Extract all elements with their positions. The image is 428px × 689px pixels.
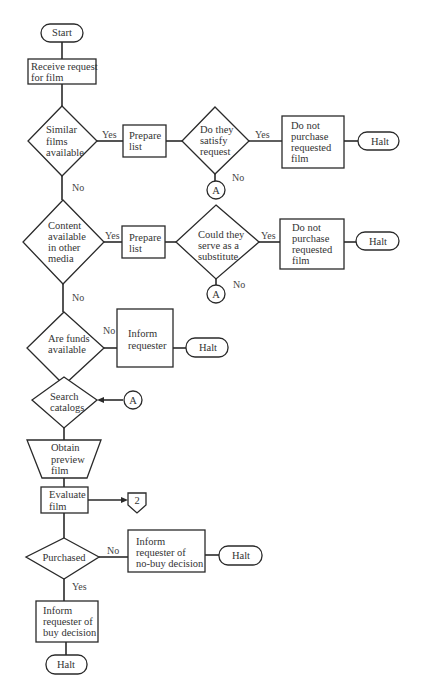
node-label: Evaluate [49, 489, 86, 500]
node-label: Do not [292, 222, 321, 233]
node-label: Halt [232, 550, 250, 561]
node-label: Obtain [51, 442, 80, 453]
process-do-not-purchase-1: Do not purchase requested film [282, 116, 344, 168]
node-label: media [48, 253, 74, 264]
node-label: substitute [198, 251, 239, 262]
manual-operation-obtain-preview: Obtain preview film [27, 440, 101, 478]
edge-label-purchased-no: No [107, 545, 119, 556]
node-label: Do not [291, 120, 320, 131]
node-label: Inform [128, 328, 157, 339]
decision-search-catalogs: Search catalogs [32, 377, 97, 428]
node-label: requester [128, 340, 167, 351]
node-label: film [49, 501, 67, 512]
edge-labels: Yes Yes No No Yes Yes No No No No Yes [72, 129, 276, 592]
node-label: serve as a [198, 240, 239, 251]
node-label: Halt [199, 342, 217, 353]
decision-serve-as-substitute: Could they serve as a substitute [176, 205, 259, 279]
node-label: A [129, 395, 137, 406]
off-page-connector-2: 2 [128, 493, 146, 513]
process-inform-buy: Inform requester of buy decision [36, 601, 98, 642]
process-receive-request: Receive request for film [28, 59, 98, 84]
node-label: requested [291, 142, 332, 153]
node-label: purchase [292, 233, 330, 244]
node-label: Do they [200, 124, 234, 135]
node-label: Purchased [42, 552, 86, 563]
node-label: Are funds [48, 333, 90, 344]
edge-label-satisfy-no: No [232, 172, 244, 183]
process-evaluate-film: Evaluate film [41, 487, 88, 513]
edge-label-content-yes: Yes [105, 230, 120, 241]
node-label: list [129, 141, 142, 152]
node-label: Content [48, 220, 81, 231]
node-label: Start [52, 27, 72, 38]
node-label: Halt [371, 136, 389, 147]
node-label: Receive request [31, 61, 98, 72]
decision-funds-available: Are funds available [27, 312, 104, 385]
node-label: list [129, 243, 142, 254]
node-label: films [46, 136, 68, 147]
node-label: in other [48, 242, 81, 253]
node-label: Could they [198, 229, 245, 240]
node-label: available [48, 231, 86, 242]
process-inform-no-buy: Inform requester of no-buy decision [128, 530, 205, 572]
edge-label-similar-yes: Yes [102, 129, 117, 140]
node-label: Inform [136, 536, 165, 547]
terminal-halt-3: Halt [186, 338, 228, 357]
process-prepare-list-2: Prepare list [122, 226, 165, 258]
process-inform-requester: Inform requester [117, 309, 173, 367]
arrow-head-icon [121, 497, 128, 503]
node-label: purchase [291, 131, 329, 142]
process-do-not-purchase-2: Do not purchase requested film [280, 219, 344, 269]
node-label: film [51, 465, 69, 476]
node-label: Search [50, 391, 79, 402]
node-label: preview [51, 454, 85, 465]
node-label: request [200, 146, 230, 157]
connector-a-2: A [207, 285, 225, 303]
edge-label-similar-no: No [72, 182, 84, 193]
node-label: for film [31, 72, 63, 83]
terminal-halt-4: Halt [219, 546, 262, 565]
terminal-halt-5: Halt [46, 655, 87, 674]
decision-similar-films: Similar films available [28, 106, 97, 176]
edge-label-funds-no: No [103, 325, 115, 336]
node-label: no-buy decision [136, 558, 204, 569]
edge-label-content-no: No [72, 292, 84, 303]
node-label: Similar [46, 124, 77, 135]
edge-label-satisfy-yes: Yes [255, 129, 270, 140]
node-label: available [46, 147, 84, 158]
node-label: Prepare [129, 130, 161, 141]
node-label: film [291, 153, 309, 164]
connector-a-1: A [207, 181, 225, 199]
node-label: catalogs [50, 402, 84, 413]
edge-label-substitute-no: No [233, 279, 245, 290]
node-label: Inform [43, 605, 72, 616]
terminal-halt-2: Halt [356, 232, 399, 250]
decision-content-other-media: Content available in other media [23, 200, 104, 284]
edge-label-purchased-yes: Yes [72, 581, 87, 592]
node-label: Halt [369, 236, 387, 247]
process-prepare-list-1: Prepare list [123, 125, 166, 157]
node-label: Halt [57, 659, 75, 670]
node-label: available [48, 344, 86, 355]
node-label: satisfy [200, 135, 228, 146]
node-label: 2 [134, 495, 139, 506]
arrow-head-icon [97, 397, 104, 403]
node-label: requested [292, 244, 333, 255]
edge-label-substitute-yes: Yes [261, 230, 276, 241]
terminal-halt-1: Halt [358, 132, 399, 150]
decision-satisfy-request: Do they satisfy request [182, 107, 249, 174]
decision-purchased: Purchased [26, 538, 99, 579]
node-label: Prepare [129, 232, 161, 243]
node-label: film [292, 255, 310, 266]
flowchart: Yes Yes No No Yes Yes No No No No Yes St… [0, 0, 428, 689]
node-label: A [212, 289, 220, 300]
node-label: A [212, 185, 220, 196]
node-label: buy decision [43, 627, 97, 638]
connector-a-3: A [124, 391, 142, 409]
node-label: requester of [43, 616, 93, 627]
node-label: requester of [136, 547, 186, 558]
terminal-start: Start [41, 24, 83, 42]
